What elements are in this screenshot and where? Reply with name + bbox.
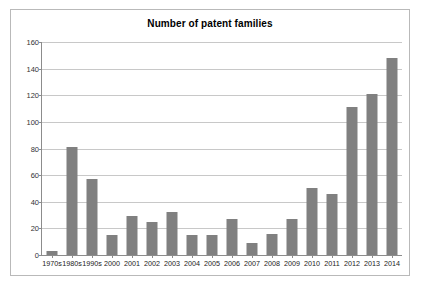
bar-group: 1980s [62,42,82,255]
x-tick-label: 2010 [304,259,320,268]
x-tick-mark [72,255,73,258]
bar [106,235,117,255]
bar [366,94,377,255]
bar [306,188,317,255]
x-tick-label: 2007 [244,259,260,268]
x-tick-mark [312,255,313,258]
bar [166,212,177,255]
x-tick-mark [392,255,393,258]
x-tick-mark [352,255,353,258]
bar-group: 2001 [122,42,142,255]
x-tick-mark [212,255,213,258]
bar-group: 2006 [222,42,242,255]
x-tick-mark [192,255,193,258]
x-tick-label: 2004 [184,259,200,268]
x-tick-mark [332,255,333,258]
x-tick-mark [92,255,93,258]
bar-group: 2012 [342,42,362,255]
bar-group: 2003 [162,42,182,255]
y-tick-label: 100 [26,117,39,126]
bar-group: 2008 [262,42,282,255]
x-tick-mark [372,255,373,258]
bar-group: 2000 [102,42,122,255]
y-tick-label: 80 [31,144,39,153]
bar [246,243,257,255]
x-tick-label: 2000 [104,259,120,268]
y-tick-label: 40 [31,197,39,206]
y-tick-label: 140 [26,64,39,73]
x-tick-label: 2001 [124,259,140,268]
chart-title: Number of patent families [11,18,409,29]
y-tick-label: 60 [31,171,39,180]
x-tick-label: 2014 [384,259,400,268]
bar [146,222,157,255]
bar-group: 2002 [142,42,162,255]
y-tick-label: 160 [26,38,39,47]
x-tick-label: 2009 [284,259,300,268]
bar [386,58,397,255]
y-tick-label: 0 [35,251,39,260]
bar-group: 1990s [82,42,102,255]
bar-group: 2014 [382,42,402,255]
x-tick-label: 2002 [144,259,160,268]
bar [206,235,217,255]
bar [286,219,297,255]
bar [126,216,137,255]
bar [66,147,77,255]
x-tick-label: 2008 [264,259,280,268]
bar-group: 2010 [302,42,322,255]
bar-group: 2011 [322,42,342,255]
bars-layer: 1970s1980s1990s2000200120022003200420052… [42,42,402,255]
y-tick-label: 120 [26,91,39,100]
bar [266,234,277,255]
bar-group: 2009 [282,42,302,255]
bar [346,107,357,255]
x-tick-label: 2006 [224,259,240,268]
bar [186,235,197,255]
plot-area: 020406080100120140160 1970s1980s1990s200… [41,42,402,256]
x-tick-mark [292,255,293,258]
bar-group: 2007 [242,42,262,255]
x-tick-label: 2012 [344,259,360,268]
bar [326,194,337,255]
y-tick-mark [39,255,42,256]
x-tick-mark [132,255,133,258]
bar-group: 2004 [182,42,202,255]
bar-group: 2013 [362,42,382,255]
y-tick-label: 20 [31,224,39,233]
bar-group: 2005 [202,42,222,255]
x-tick-label: 1970s [42,259,62,268]
x-tick-label: 2013 [364,259,380,268]
x-tick-mark [52,255,53,258]
x-tick-mark [112,255,113,258]
bar-group: 1970s [42,42,62,255]
x-tick-mark [272,255,273,258]
bar [226,219,237,255]
x-tick-label: 2003 [164,259,180,268]
bar [86,179,97,255]
x-tick-mark [172,255,173,258]
x-tick-label: 2005 [204,259,220,268]
x-tick-mark [152,255,153,258]
x-tick-mark [252,255,253,258]
x-tick-label: 2011 [324,259,339,268]
x-tick-label: 1990s [82,259,102,268]
x-tick-mark [232,255,233,258]
x-tick-label: 1980s [62,259,82,268]
chart-frame: Number of patent families 02040608010012… [10,9,410,276]
